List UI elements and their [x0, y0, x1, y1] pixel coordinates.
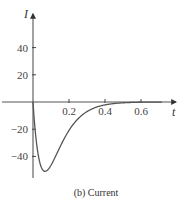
chart-caption: (b) Current — [0, 187, 192, 198]
x-tick-label: 0.6 — [134, 105, 148, 117]
y-tick-label: −20 — [11, 123, 29, 135]
current-chart: 0.20.40.64020−20−40 t I — [0, 0, 192, 211]
x-tick-label: 0.2 — [62, 105, 76, 117]
x-tick-label: 0.4 — [98, 105, 112, 117]
x-axis-label: t — [172, 105, 176, 119]
axes — [2, 14, 176, 178]
y-tick-label: 20 — [17, 69, 29, 81]
y-tick-label: −40 — [11, 150, 29, 162]
y-tick-label: 40 — [17, 42, 29, 54]
y-axis-label: I — [23, 7, 29, 21]
